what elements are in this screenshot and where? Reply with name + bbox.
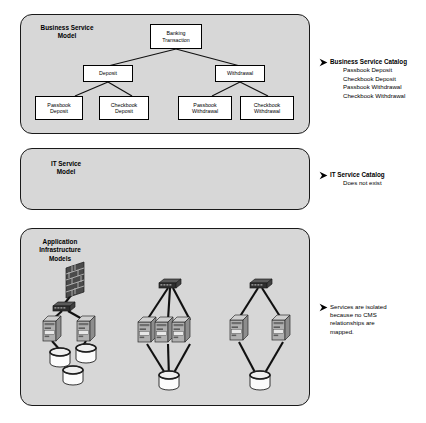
switch-icon <box>250 279 272 288</box>
arrow-right-icon <box>319 303 328 312</box>
server-icon <box>172 317 190 342</box>
diagram-canvas: Business Service Model Banking Transacti… <box>0 0 426 423</box>
server-icon <box>272 315 290 340</box>
switch-icon <box>159 279 181 288</box>
database-icon <box>159 371 179 390</box>
switch-icon <box>53 302 75 311</box>
server-icon <box>43 316 61 341</box>
server-icon <box>230 315 248 340</box>
database-icon <box>63 366 83 385</box>
callout-items: Services are isolated because no CMS rel… <box>330 303 387 337</box>
database-icon <box>76 344 96 363</box>
firewall-icon <box>66 262 84 298</box>
server-icon <box>77 316 95 341</box>
database-icon <box>250 371 270 390</box>
callout-isolated-services-note: Services are isolated because no CMS rel… <box>319 303 425 343</box>
server-icon <box>155 317 173 342</box>
database-icon <box>50 348 70 367</box>
infrastructure-graphics <box>0 0 426 423</box>
server-icon <box>138 317 156 342</box>
